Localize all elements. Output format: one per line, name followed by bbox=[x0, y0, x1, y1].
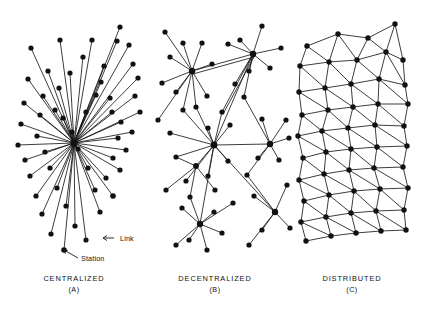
decentralized-hub-node bbox=[272, 209, 278, 215]
caption-decentralized: DECENTRALIZED bbox=[178, 274, 251, 283]
caption-distributed: DISTRIBUTED bbox=[322, 274, 381, 283]
link-target-node bbox=[110, 193, 116, 199]
decentralized-hub-node bbox=[250, 51, 256, 57]
link-annotation-label: Link bbox=[120, 234, 134, 243]
subcaption-centralized: (A) bbox=[68, 285, 79, 294]
station-annotation-label: Station bbox=[81, 254, 104, 263]
subcaption-distributed: (C) bbox=[346, 285, 357, 294]
diagram-canvas: Link Station CENTRALIZED (A) bbox=[0, 0, 427, 312]
central-hub-node bbox=[71, 140, 78, 147]
caption-centralized: CENTRALIZED bbox=[43, 274, 104, 283]
decentralized-hub-node bbox=[267, 141, 273, 147]
figure-background bbox=[0, 0, 427, 312]
decentralized-hub-node bbox=[211, 142, 218, 149]
decentralized-hub-node bbox=[189, 68, 195, 74]
subcaption-decentralized: (B) bbox=[209, 285, 220, 294]
decentralized-hub-node bbox=[197, 221, 203, 227]
network-topology-figure: Link Station CENTRALIZED (A) bbox=[0, 0, 427, 312]
